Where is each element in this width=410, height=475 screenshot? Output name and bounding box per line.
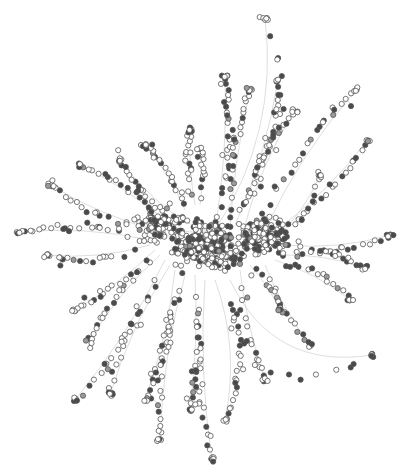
graph-node xyxy=(97,225,102,230)
graph-node xyxy=(199,196,204,201)
graph-node xyxy=(164,317,169,322)
graph-node xyxy=(157,233,162,238)
graph-node xyxy=(363,266,368,271)
graph-node xyxy=(345,247,350,252)
graph-node xyxy=(240,298,245,303)
graph-node xyxy=(286,116,291,121)
graph-node xyxy=(286,372,291,377)
graph-node xyxy=(201,250,206,255)
graph-node xyxy=(236,330,241,335)
graph-node xyxy=(138,322,143,327)
graph-node xyxy=(244,85,249,90)
graph-node xyxy=(129,177,134,182)
graph-node xyxy=(166,171,171,176)
graph-node xyxy=(288,264,293,269)
graph-node xyxy=(150,199,155,204)
graph-node xyxy=(37,227,42,232)
graph-node xyxy=(114,362,119,367)
graph-node xyxy=(282,236,287,241)
graph-node xyxy=(331,112,336,117)
graph-node xyxy=(134,270,139,275)
graph-node xyxy=(272,184,277,189)
graph-node xyxy=(258,184,263,189)
graph-node xyxy=(233,391,238,396)
graph-node xyxy=(266,149,271,154)
graph-node xyxy=(386,234,391,239)
graph-node xyxy=(191,390,196,395)
graph-node xyxy=(275,77,280,82)
graph-node xyxy=(187,127,192,132)
graph-node xyxy=(195,154,200,159)
graph-node xyxy=(143,218,148,223)
graph-node xyxy=(369,353,374,358)
graph-node xyxy=(116,347,121,352)
graph-node xyxy=(268,235,273,240)
graph-node xyxy=(201,157,206,162)
graph-node xyxy=(151,381,156,386)
graph-node xyxy=(237,207,242,212)
graph-node xyxy=(80,393,85,398)
graph-node xyxy=(144,258,149,263)
graph-node xyxy=(360,148,365,153)
graph-node xyxy=(179,190,184,195)
graph-node xyxy=(286,222,291,227)
graph-node xyxy=(276,84,281,89)
graph-node xyxy=(124,277,129,282)
graph-node xyxy=(281,106,286,111)
graph-node xyxy=(89,300,94,305)
graph-node xyxy=(131,278,136,283)
graph-node xyxy=(179,196,184,201)
graph-node xyxy=(77,226,82,231)
graph-node xyxy=(122,254,127,259)
graph-node xyxy=(236,324,241,329)
graph-node xyxy=(332,107,337,112)
graph-node xyxy=(239,286,244,291)
graph-node xyxy=(186,238,191,243)
graph-node xyxy=(237,343,242,348)
graph-node xyxy=(112,378,117,383)
graph-node xyxy=(181,201,186,206)
graph-node xyxy=(156,226,161,231)
graph-node xyxy=(91,331,96,336)
graph-node xyxy=(91,377,96,382)
graph-node xyxy=(142,199,147,204)
graph-node xyxy=(193,220,198,225)
graph-node xyxy=(212,235,217,240)
graph-node xyxy=(133,247,138,252)
graph-node xyxy=(116,148,121,153)
graph-node xyxy=(219,205,224,210)
graph-node xyxy=(182,252,187,257)
graph-node xyxy=(252,181,257,186)
graph-node xyxy=(180,271,185,276)
graph-node xyxy=(312,184,317,189)
graph-node xyxy=(365,139,370,144)
graph-node xyxy=(50,178,55,183)
graph-node xyxy=(391,233,396,238)
graph-node xyxy=(255,165,260,170)
graph-node xyxy=(234,248,239,253)
graph-node xyxy=(261,155,266,160)
graph-node xyxy=(216,248,221,253)
graph-node xyxy=(252,234,257,239)
graph-node xyxy=(187,177,192,182)
graph-node xyxy=(125,234,130,239)
graph-node xyxy=(117,288,122,293)
graph-node xyxy=(267,214,272,219)
graph-node xyxy=(263,135,268,140)
graph-node xyxy=(128,272,133,277)
graph-node xyxy=(283,230,288,235)
graph-node xyxy=(199,162,204,167)
graph-node xyxy=(193,368,198,373)
graph-node xyxy=(206,262,211,267)
graph-node xyxy=(194,384,199,389)
graph-node xyxy=(348,104,353,109)
graph-node xyxy=(170,236,175,241)
graph-node xyxy=(172,300,177,305)
graph-node xyxy=(241,106,246,111)
graph-node xyxy=(84,210,89,215)
graph-node xyxy=(194,324,199,329)
graph-node xyxy=(310,266,315,271)
graph-node xyxy=(83,338,88,343)
graph-node xyxy=(320,120,325,125)
graph-node xyxy=(111,300,116,305)
